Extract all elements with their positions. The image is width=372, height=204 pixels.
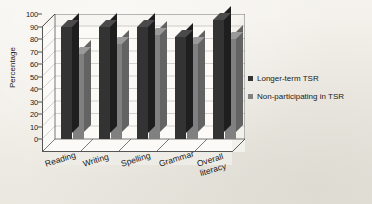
y-axis-tick-label: 60 xyxy=(30,60,38,69)
y-axis-tick-mark xyxy=(38,139,42,140)
y-axis-tick-mark xyxy=(38,126,42,127)
y-axis-tick-mark xyxy=(38,64,42,65)
y-axis-tick-mark xyxy=(38,76,42,77)
plot-floor-plane xyxy=(42,152,232,165)
y-axis-tick-label: 30 xyxy=(30,97,38,106)
y-axis-tick-label: 10 xyxy=(30,122,38,131)
bar-front-face xyxy=(61,27,72,140)
y-axis-title: Percentage xyxy=(8,32,17,104)
bar-side-face xyxy=(160,21,167,132)
y-axis-tick-label: 70 xyxy=(30,47,38,56)
bar-side-face xyxy=(122,30,129,132)
y-axis-tick-mark xyxy=(38,26,42,27)
y-axis-tick-mark xyxy=(38,89,42,90)
y-axis-tick-label: 80 xyxy=(30,35,38,44)
bar-side-face xyxy=(224,6,231,132)
bar-chart: 0102030405060708090100 Percentage Readin… xyxy=(0,0,372,204)
bar-writing-series-1 xyxy=(99,27,110,140)
bar-side-face xyxy=(148,13,155,133)
y-axis-tick-label: 50 xyxy=(30,72,38,81)
y-axis-tick-label: 40 xyxy=(30,85,38,94)
bar-front-face xyxy=(213,20,224,139)
y-axis-tick-mark xyxy=(38,101,42,102)
bars-layer xyxy=(42,14,245,152)
bar-front-face xyxy=(137,27,148,140)
bar-side-face xyxy=(110,13,117,133)
y-axis-tick-label: 100 xyxy=(26,10,38,19)
y-axis-tick-mark xyxy=(38,114,42,115)
bar-side-face xyxy=(236,25,243,132)
bar-reading-series-1 xyxy=(61,27,72,140)
y-axis-tick-label: 20 xyxy=(30,110,38,119)
legend-swatch-icon xyxy=(248,94,253,99)
bar-overall-literacy-series-1 xyxy=(213,20,224,139)
legend-item-1: Longer-term TSR xyxy=(248,74,344,83)
bar-front-face xyxy=(99,27,110,140)
legend-swatch-icon xyxy=(248,76,253,81)
legend-label: Longer-term TSR xyxy=(257,74,319,83)
legend-label: Non-participating in TSR xyxy=(257,92,344,101)
legend-item-2: Non-participating in TSR xyxy=(248,92,344,101)
y-axis-tick-mark xyxy=(38,51,42,52)
y-axis-tick-mark xyxy=(38,14,42,15)
y-axis-tick-label: 90 xyxy=(30,22,38,31)
bar-grammar-series-1 xyxy=(175,37,186,140)
y-axis-tick-mark xyxy=(38,39,42,40)
bar-side-face xyxy=(84,40,91,132)
bar-front-face xyxy=(175,37,186,140)
chart-legend: Longer-term TSRNon-participating in TSR xyxy=(248,74,344,110)
bar-side-face xyxy=(72,13,79,133)
bar-side-face xyxy=(198,30,205,132)
bar-spelling-series-1 xyxy=(137,27,148,140)
y-axis: 0102030405060708090100 xyxy=(0,14,42,152)
bar-side-face xyxy=(186,23,193,133)
